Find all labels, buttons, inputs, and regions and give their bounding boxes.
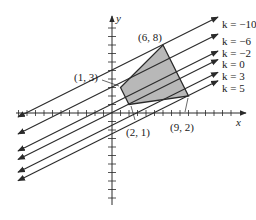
- label-k-neg10: k = −10: [222, 18, 256, 30]
- level-line-labels: k = −10 k = −6 k = −2 k = 0 k = 3 k = 5: [222, 18, 256, 94]
- level-line-k-neg6: [18, 34, 218, 134]
- label-k-5: k = 5: [222, 82, 245, 94]
- level-line-k-neg10: [18, 17, 218, 117]
- vertex-label-1-3: (1, 3): [74, 71, 98, 84]
- vertex-label-2-1: (2, 1): [126, 126, 150, 139]
- x-axis-label: x: [235, 116, 241, 128]
- label-k-3: k = 3: [222, 70, 245, 82]
- level-line-k-neg2: [18, 51, 218, 151]
- label-k-neg6: k = −6: [222, 35, 251, 47]
- level-line-k-0: [18, 60, 218, 160]
- level-lines-diagram: x y k = −10 k: [0, 0, 256, 220]
- vertex-label-9-2: (9, 2): [170, 121, 194, 134]
- y-axis-label: y: [115, 12, 121, 24]
- label-k-0: k = 0: [222, 58, 245, 70]
- leader-1-3: [102, 80, 119, 86]
- vertex-label-6-8: (6, 8): [138, 31, 162, 44]
- leader-9-2: [185, 98, 188, 112]
